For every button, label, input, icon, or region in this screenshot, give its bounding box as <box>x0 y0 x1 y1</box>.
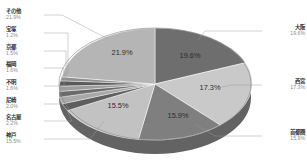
callout-shutoken: 首都圏 15.9% <box>290 129 305 142</box>
slice-sonota <box>62 28 155 84</box>
callout-sonota-percent: 21.9% <box>6 14 21 20</box>
callout-osaka: 大阪 19.6% <box>290 24 305 37</box>
callout-fumei: 不明 1.6% <box>6 79 18 92</box>
callout-kobe: 神戸 15.5% <box>6 132 21 145</box>
callout-osaka-percent: 19.6% <box>290 30 305 36</box>
chart-canvas: 19.6% 17.3% 15.9% 15.5% 21.9% 大阪 19.6% 西… <box>0 0 307 164</box>
callout-nishinomiya-percent: 17.3% <box>290 84 305 90</box>
slice-value-osaka: 19.6% <box>180 51 201 60</box>
callout-kyoto: 京都 1.5% <box>6 44 18 57</box>
callout-kobe-percent: 15.5% <box>6 138 21 144</box>
callout-sonota: その他 21.9% <box>6 8 21 21</box>
slice-value-kobe: 15.5% <box>108 101 129 110</box>
slice-value-shutoken: 15.9% <box>168 111 189 120</box>
callout-shutoken-percent: 15.9% <box>290 135 305 141</box>
callout-fukuoka: 福岡 1.6% <box>6 61 18 74</box>
callout-fukuoka-percent: 1.6% <box>6 67 18 73</box>
callout-nishinomiya: 西宮 17.3% <box>290 78 305 91</box>
callout-takarazuka-percent: 1.2% <box>6 32 18 38</box>
callout-amagasaki: 尼崎 2.0% <box>6 97 18 110</box>
callout-takarazuka: 宝塚 1.2% <box>6 26 18 39</box>
callout-amagasaki-percent: 2.0% <box>6 103 18 109</box>
pie-chart-graphic: 19.6% 17.3% 15.9% 15.5% 21.9% <box>0 0 307 164</box>
callout-kyoto-percent: 1.5% <box>6 50 18 56</box>
slice-value-sonota: 21.9% <box>112 48 133 57</box>
callout-nagoya: 名古屋 2.2% <box>6 114 21 127</box>
callout-nagoya-percent: 2.2% <box>6 120 21 126</box>
callout-fumei-percent: 1.6% <box>6 85 18 91</box>
